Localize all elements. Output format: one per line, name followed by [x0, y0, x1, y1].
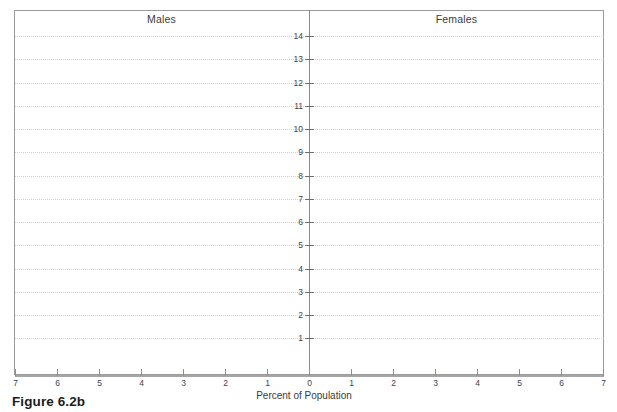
- x-axis-label-right: 4: [468, 378, 488, 388]
- x-axis-label-left: 0: [300, 378, 320, 388]
- figure-caption: Figure 6.2b: [12, 394, 85, 409]
- x-axis-title-text: Percent of Population: [256, 390, 352, 401]
- x-axis-label-left: 2: [216, 378, 236, 388]
- y-axis-tick: [305, 106, 314, 107]
- y-axis-label: 4: [277, 264, 303, 274]
- y-axis-label: 7: [277, 194, 303, 204]
- x-axis-tick: [351, 369, 352, 376]
- x-axis-label-left: 6: [48, 378, 68, 388]
- y-axis-tick: [305, 292, 314, 293]
- x-axis-title: Percent of Population: [0, 390, 617, 401]
- y-axis-tick: [305, 199, 314, 200]
- x-axis-tick: [57, 369, 58, 376]
- x-axis-label-left: 4: [132, 378, 152, 388]
- x-axis-tick: [225, 369, 226, 376]
- x-axis-tick: [519, 369, 520, 376]
- x-axis-label-right: 6: [552, 378, 572, 388]
- x-axis-tick: [309, 369, 310, 376]
- y-axis-label: 5: [277, 240, 303, 250]
- y-axis-label: 1: [277, 333, 303, 343]
- y-axis-label: 6: [277, 217, 303, 227]
- panel-title-males: Males: [14, 13, 309, 25]
- y-axis-tick: [305, 152, 314, 153]
- x-axis-label-right: 5: [510, 378, 530, 388]
- x-axis-label-right: 3: [426, 378, 446, 388]
- y-axis-tick: [305, 59, 314, 60]
- y-axis-label: 10: [277, 124, 303, 134]
- y-axis-label: 11: [277, 101, 303, 111]
- x-axis-tick: [561, 369, 562, 376]
- x-axis-label-right: 2: [384, 378, 404, 388]
- x-axis-tick: [183, 369, 184, 376]
- x-axis-tick: [141, 369, 142, 376]
- y-axis-tick: [305, 245, 314, 246]
- x-axis-tick: [267, 369, 268, 376]
- x-axis-label-right: 1: [342, 378, 362, 388]
- y-axis-label: 9: [277, 147, 303, 157]
- y-axis-label: 13: [277, 54, 303, 64]
- x-axis-tick: [15, 369, 16, 376]
- x-axis-tick: [99, 369, 100, 376]
- panel-title-females: Females: [309, 13, 604, 25]
- y-axis-tick: [305, 176, 314, 177]
- x-axis-label-left: 1: [258, 378, 278, 388]
- figure-root: Males Females 1234567891011121314 765432…: [0, 0, 617, 412]
- y-axis-tick: [305, 129, 314, 130]
- x-axis-label-right: 7: [594, 378, 614, 388]
- x-axis-label-left: 3: [174, 378, 194, 388]
- y-axis-label: 14: [277, 31, 303, 41]
- y-axis-label: 8: [277, 171, 303, 181]
- y-axis-tick: [305, 222, 314, 223]
- y-axis-tick: [305, 315, 314, 316]
- y-axis-tick: [305, 83, 314, 84]
- y-axis-label: 3: [277, 287, 303, 297]
- y-axis-label: 12: [277, 78, 303, 88]
- y-axis-tick: [305, 36, 314, 37]
- y-axis-tick: [305, 269, 314, 270]
- x-axis-label-left: 5: [90, 378, 110, 388]
- x-axis-tick: [435, 369, 436, 376]
- y-axis-label: 2: [277, 310, 303, 320]
- center-zero-axis: [309, 10, 310, 376]
- y-axis-tick: [305, 338, 314, 339]
- x-axis-tick: [477, 369, 478, 376]
- x-axis-tick: [603, 369, 604, 376]
- x-axis-tick: [393, 369, 394, 376]
- x-axis-label-left: 7: [6, 378, 26, 388]
